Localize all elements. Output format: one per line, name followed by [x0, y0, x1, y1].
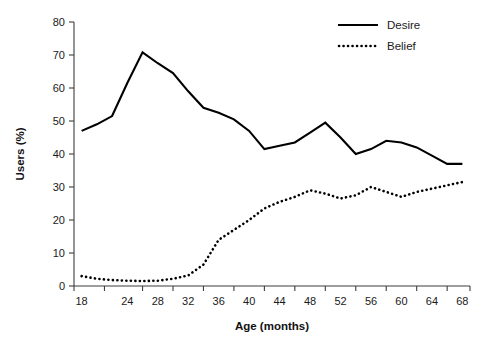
y-tick-label: 80 — [53, 16, 65, 28]
y-tick-label: 60 — [53, 82, 65, 94]
x-tick-label: 18 — [75, 295, 87, 307]
x-tick-label: 28 — [152, 295, 164, 307]
x-tick-label: 48 — [304, 295, 316, 307]
x-axis-ticks — [74, 286, 470, 291]
line-chart: 01020304050607080 1824283236404448525660… — [0, 0, 483, 344]
y-tick-label: 70 — [53, 49, 65, 61]
x-tick-label: 40 — [243, 295, 255, 307]
chart-container: 01020304050607080 1824283236404448525660… — [0, 0, 483, 344]
x-tick-label: 24 — [121, 295, 133, 307]
y-axis-tick-labels: 01020304050607080 — [53, 16, 65, 292]
y-tick-label: 0 — [59, 280, 65, 292]
series-line-desire — [82, 52, 463, 164]
y-tick-label: 20 — [53, 214, 65, 226]
y-tick-label: 40 — [53, 148, 65, 160]
series-line-belief — [82, 182, 463, 281]
x-tick-label: 32 — [182, 295, 194, 307]
x-tick-label: 60 — [395, 295, 407, 307]
legend-label-desire: Desire — [387, 19, 420, 31]
x-axis-title: Age (months) — [235, 320, 309, 332]
legend-label-belief: Belief — [387, 40, 417, 52]
x-tick-label: 56 — [365, 295, 377, 307]
x-tick-label: 52 — [334, 295, 346, 307]
y-tick-label: 10 — [53, 247, 65, 259]
x-axis-tick-labels: 18242832364044485256606468 — [75, 295, 468, 307]
y-tick-label: 30 — [53, 181, 65, 193]
x-tick-label: 64 — [426, 295, 438, 307]
x-tick-label: 44 — [273, 295, 285, 307]
x-tick-label: 68 — [456, 295, 468, 307]
y-tick-label: 50 — [53, 115, 65, 127]
x-tick-label: 36 — [213, 295, 225, 307]
legend: Desire Belief — [338, 19, 420, 52]
y-axis-title: Users (%) — [14, 127, 26, 180]
y-axis-ticks — [69, 22, 74, 286]
